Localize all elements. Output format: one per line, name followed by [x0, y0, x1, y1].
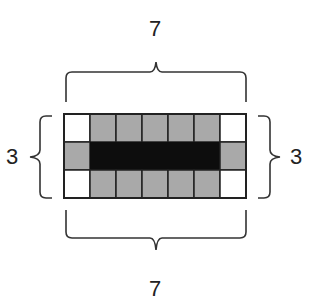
grid-cell-gray — [142, 170, 168, 198]
left-count-label: 3 — [6, 146, 18, 168]
grid-cell-white — [220, 114, 246, 142]
grid-cell-gray — [168, 170, 194, 198]
grid-cell-white — [220, 170, 246, 198]
right-brace — [258, 116, 280, 198]
grid-cell-gray — [220, 142, 246, 170]
grid-cell-black — [194, 142, 220, 170]
bottom-brace — [66, 210, 246, 250]
grid-cell-gray — [194, 170, 220, 198]
top-count-label: 7 — [149, 18, 161, 40]
grid-cell-black — [116, 142, 142, 170]
grid-cell-white — [64, 170, 90, 198]
grid-cell-black — [142, 142, 168, 170]
top-brace — [66, 62, 246, 102]
grid-cell-gray — [64, 142, 90, 170]
diagram-canvas — [0, 0, 311, 302]
grid-cell-black — [90, 142, 116, 170]
left-brace — [30, 116, 52, 198]
grid-cell-gray — [116, 114, 142, 142]
grid-cell-gray — [142, 114, 168, 142]
grid-cell-gray — [90, 170, 116, 198]
grid-cell-gray — [90, 114, 116, 142]
grid-cell-white — [64, 114, 90, 142]
grid-cell-gray — [168, 114, 194, 142]
grid-7x3 — [64, 114, 246, 198]
grid-cell-gray — [194, 114, 220, 142]
bottom-count-label: 7 — [149, 278, 161, 300]
right-count-label: 3 — [290, 146, 302, 168]
grid-cell-gray — [116, 170, 142, 198]
grid-cell-black — [168, 142, 194, 170]
